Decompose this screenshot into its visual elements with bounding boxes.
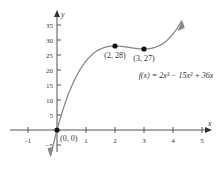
- data-point: [112, 43, 117, 48]
- x-tick-label: 4: [171, 137, 175, 145]
- point-label: (2, 28): [104, 51, 126, 60]
- point-label: (3, 27): [133, 54, 155, 63]
- x-tick-label: 2: [113, 137, 117, 145]
- curve-start-arrow-icon: [47, 148, 53, 157]
- y-axis-label: y: [60, 10, 65, 19]
- data-point: [54, 127, 59, 132]
- function-graph: xy-112345−55101520253035(0, 0)(2, 28)(3,…: [0, 0, 219, 169]
- data-point: [141, 46, 146, 51]
- y-tick-label: 30: [46, 37, 54, 45]
- point-label: (0, 0): [60, 134, 78, 143]
- y-tick-label: 25: [46, 52, 54, 60]
- function-label: f(x) = 2x³ − 15x² + 36x: [139, 71, 214, 80]
- y-tick-label: 35: [46, 22, 54, 30]
- x-axis-label: x: [207, 119, 212, 128]
- y-tick-label: 20: [46, 67, 54, 75]
- y-tick-label: 15: [46, 82, 54, 90]
- x-tick-label: 1: [84, 137, 88, 145]
- x-tick-label: 3: [142, 137, 146, 145]
- x-tick-label: 5: [200, 137, 204, 145]
- y-tick-label: 10: [46, 97, 54, 105]
- y-tick-label: 5: [50, 112, 54, 120]
- y-axis-arrow-icon: [54, 10, 60, 17]
- x-tick-label: -1: [25, 137, 31, 145]
